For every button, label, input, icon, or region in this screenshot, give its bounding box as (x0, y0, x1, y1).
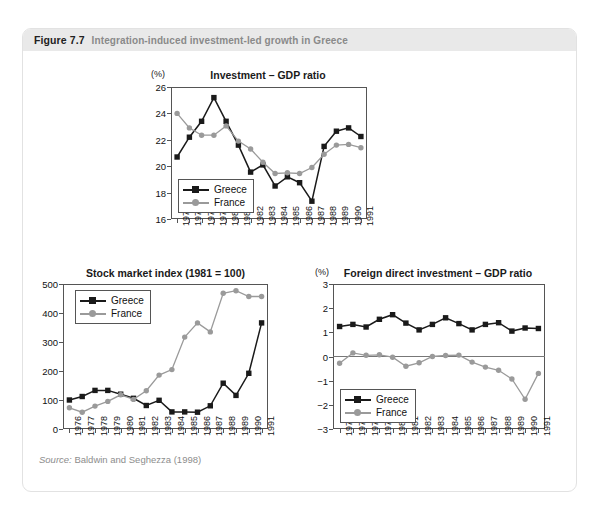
data-point-greece (377, 317, 382, 322)
data-point-greece (536, 326, 541, 331)
data-point-france (443, 353, 448, 358)
data-point-france (416, 360, 421, 365)
data-point-greece (416, 327, 421, 332)
source-label: Source: (39, 454, 72, 465)
data-point-greece (337, 324, 342, 329)
data-point-france (509, 376, 514, 381)
data-point-greece (430, 322, 435, 327)
data-point-france (496, 368, 501, 373)
figure-card: Figure 7.7 Integration-induced investmen… (22, 28, 577, 492)
legend-swatch-square-icon (345, 394, 371, 405)
series-line-greece (340, 315, 539, 331)
data-point-greece (456, 321, 461, 326)
data-point-greece (443, 315, 448, 320)
chart-fdi-gdp: Foreign direct investment – GDP ratio(%)… (23, 29, 576, 491)
data-point-greece (469, 327, 474, 332)
data-point-france (430, 354, 435, 359)
data-point-france (483, 364, 488, 369)
data-point-greece (390, 312, 395, 317)
data-point-france (363, 353, 368, 358)
data-point-france (377, 352, 382, 357)
data-point-france (456, 352, 461, 357)
data-point-france (403, 364, 408, 369)
data-point-france (350, 350, 355, 355)
data-point-greece (496, 320, 501, 325)
legend-label: France (376, 407, 407, 418)
chart-legend: GreeceFrance (340, 389, 416, 423)
data-point-france (522, 397, 527, 402)
data-point-greece (483, 322, 488, 327)
data-point-greece (403, 320, 408, 325)
data-point-greece (522, 325, 527, 330)
figure-source: Source: Baldwin and Seghezza (1998) (39, 454, 201, 465)
legend-item-greece: Greece (345, 393, 409, 406)
data-point-france (337, 361, 342, 366)
data-point-greece (363, 324, 368, 329)
data-point-france (536, 371, 541, 376)
legend-label: Greece (376, 394, 409, 405)
legend-item-france: France (345, 406, 409, 419)
data-point-france (390, 355, 395, 360)
data-point-greece (350, 322, 355, 327)
figure-page: Figure 7.7 Integration-induced investmen… (0, 0, 602, 513)
series-layer (23, 29, 576, 491)
data-point-france (469, 359, 474, 364)
source-value: Baldwin and Seghezza (1998) (72, 454, 201, 465)
legend-swatch-circle-icon (345, 407, 371, 418)
data-point-greece (509, 328, 514, 333)
